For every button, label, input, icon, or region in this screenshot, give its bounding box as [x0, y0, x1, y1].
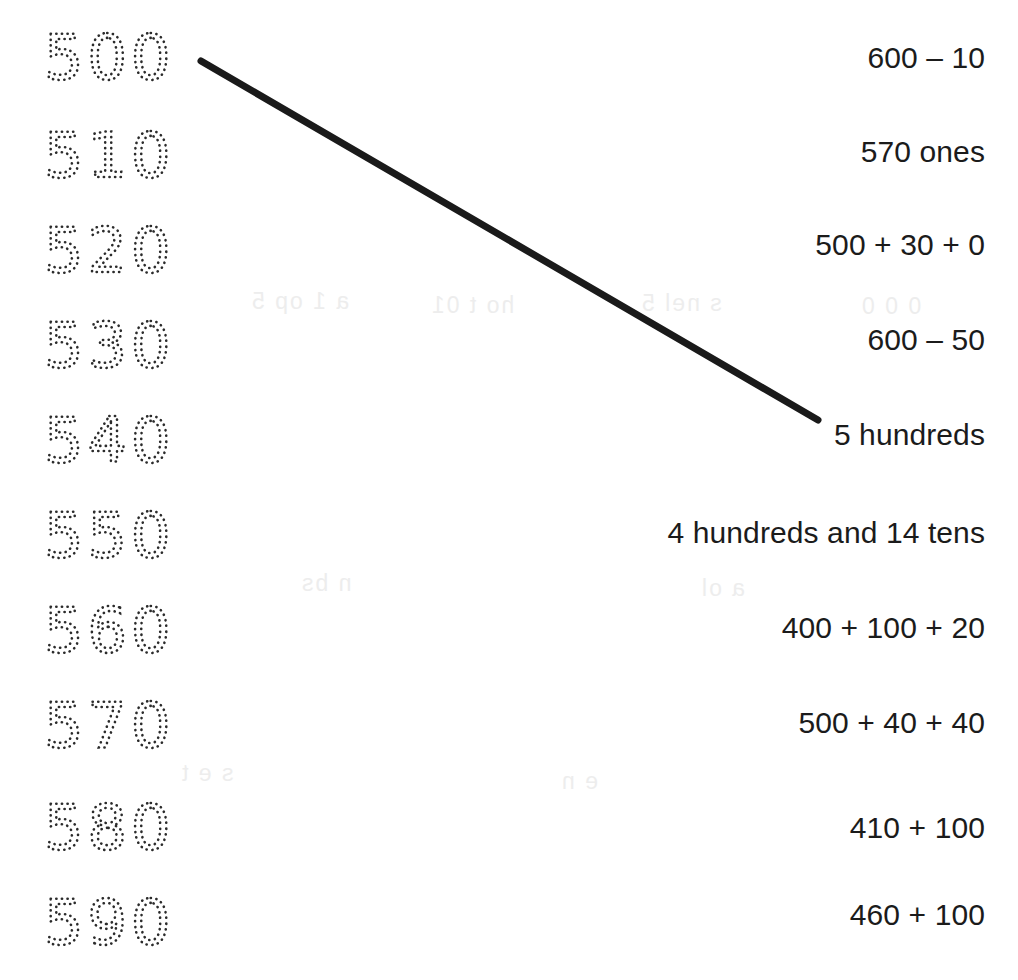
expression-item[interactable]: 4 hundreds and 14 tens — [520, 518, 985, 548]
trace-number-label: 560 — [44, 594, 174, 667]
trace-number-560[interactable]: 560 — [44, 602, 194, 664]
trace-number-520[interactable]: 520 — [44, 222, 194, 284]
trace-number-label: 500 — [44, 21, 174, 94]
expression-item[interactable]: 410 + 100 — [520, 813, 985, 843]
expression-item[interactable]: 500 + 40 + 40 — [520, 708, 985, 738]
expression-item[interactable]: 400 + 100 + 20 — [520, 613, 985, 643]
trace-number-label: 570 — [44, 689, 174, 762]
trace-number-label: 550 — [44, 499, 174, 572]
bleedthrough-ghost-text: a 1 op 5 — [250, 288, 349, 315]
trace-number-label: 530 — [44, 309, 174, 382]
trace-number-590[interactable]: 590 — [44, 894, 194, 956]
trace-number-label: 510 — [44, 119, 174, 192]
trace-number-510[interactable]: 510 — [44, 127, 194, 189]
trace-number-570[interactable]: 570 — [44, 697, 194, 759]
trace-number-500[interactable]: 500 — [44, 29, 194, 91]
trace-number-label: 540 — [44, 404, 174, 477]
trace-number-530[interactable]: 530 — [44, 317, 194, 379]
trace-number-label: 590 — [44, 886, 174, 959]
expression-item[interactable]: 600 – 50 — [520, 325, 985, 355]
trace-number-label: 580 — [44, 791, 174, 864]
trace-number-550[interactable]: 550 — [44, 507, 194, 569]
expression-item[interactable]: 570 ones — [520, 137, 985, 167]
bleedthrough-ghost-text: n bs — [300, 570, 351, 597]
bleedthrough-ghost-text: ho t 01 — [430, 292, 514, 319]
worksheet-page: a 1 op 5ho t 01s nel 50 0 0n bsa ols e t… — [0, 0, 1018, 980]
trace-number-580[interactable]: 580 — [44, 799, 194, 861]
expression-item[interactable]: 460 + 100 — [520, 900, 985, 930]
trace-number-label: 520 — [44, 214, 174, 287]
expression-item[interactable]: 5 hundreds — [520, 420, 985, 450]
expression-column: 600 – 10570 ones500 + 30 + 0600 – 505 hu… — [520, 0, 985, 980]
expression-item[interactable]: 500 + 30 + 0 — [520, 230, 985, 260]
expression-item[interactable]: 600 – 10 — [520, 43, 985, 73]
trace-number-column: 500510520530540550560570580590 — [0, 0, 260, 980]
trace-number-540[interactable]: 540 — [44, 412, 194, 474]
